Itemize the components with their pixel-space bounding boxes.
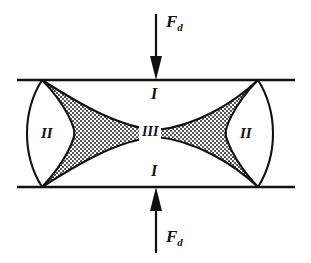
figure-container: Fd Fd I I II II III — [0, 0, 311, 263]
arrow-down-icon — [150, 14, 162, 80]
region-three-label: III — [139, 124, 161, 141]
force-label-top: Fd — [166, 13, 183, 30]
force-label-top-subscript: d — [177, 21, 183, 33]
region-one-label-top: I — [151, 86, 157, 102]
force-label-bottom-symbol: F — [166, 227, 177, 246]
force-label-bottom: Fd — [166, 228, 183, 245]
region-two-label-right: II — [240, 126, 252, 141]
arrow-down-head — [150, 56, 162, 80]
force-label-bottom-subscript: d — [177, 236, 183, 248]
region-one-label-bottom: I — [151, 163, 157, 179]
arrow-up-head — [150, 187, 162, 211]
region-two-label-left: II — [41, 126, 53, 141]
arrow-up-icon — [150, 187, 162, 253]
force-label-top-symbol: F — [166, 12, 177, 31]
